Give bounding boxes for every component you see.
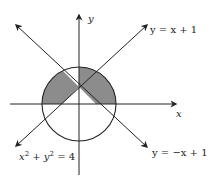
y-axis-label: y: [87, 13, 94, 24]
graph: y x y = x + 1 y = −x + 1 x2 + y2 = 4: [0, 0, 212, 185]
shaded-region: [0, 0, 130, 104]
x-axis-label: x: [176, 108, 182, 119]
line1-label: y = x + 1: [149, 24, 197, 35]
line2-label: y = −x + 1: [151, 147, 208, 158]
circle-label: x2 + y2 = 4: [19, 150, 75, 162]
